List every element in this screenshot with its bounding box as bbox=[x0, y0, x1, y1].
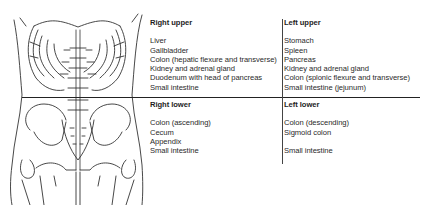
quadrant-right-lower: Right lower Colon (ascending) Cecum Appe… bbox=[150, 100, 211, 155]
organ-item: Small intestine bbox=[150, 83, 277, 92]
organ-item: Duodenum with head of pancreas bbox=[150, 73, 277, 82]
quadrant-right-upper: Right upper Liver Gallbladder Colon (hep… bbox=[150, 18, 277, 92]
organ-item: Kidney and adrenal gland bbox=[284, 64, 410, 73]
hip-joints bbox=[20, 160, 135, 178]
organ-item: Small intestine (jejunum) bbox=[284, 83, 410, 92]
organ-item: Colon (descending) bbox=[284, 118, 349, 127]
torso-skeleton-illustration bbox=[0, 0, 148, 205]
organ-item: Stomach bbox=[284, 36, 410, 45]
organ-item: Small intestine bbox=[284, 146, 349, 155]
sacrum bbox=[62, 120, 94, 160]
spacer bbox=[284, 137, 349, 146]
body-outline-right bbox=[132, 15, 143, 205]
organ-item: Liver bbox=[150, 36, 277, 45]
horizontal-quadrant-divider bbox=[22, 97, 420, 98]
organ-item: Small intestine bbox=[150, 146, 211, 155]
organ-item: Cecum bbox=[150, 128, 211, 137]
organ-item: Colon (ascending) bbox=[150, 118, 211, 127]
body-outline-left bbox=[11, 20, 23, 205]
organ-item: Colon (splonic flexure and transverse) bbox=[284, 73, 410, 82]
organ-item: Colon (hepatic flexure and transverse) bbox=[150, 55, 277, 64]
quadrant-title: Left upper bbox=[284, 18, 410, 27]
quadrant-left-lower: Left lower Colon (descending) Sigmoid co… bbox=[284, 100, 349, 155]
organ-item: Kidney and adrenal gland bbox=[150, 64, 277, 73]
organ-item: Pancreas bbox=[284, 55, 410, 64]
organ-item: Appendix bbox=[150, 137, 211, 146]
quadrant-title: Left lower bbox=[284, 100, 349, 109]
vertical-quadrant-divider bbox=[282, 19, 283, 164]
pelvis bbox=[26, 104, 131, 130]
quadrant-left-upper: Left upper Stomach Spleen Pancreas Kidne… bbox=[284, 18, 410, 92]
organ-item: Gallbladder bbox=[150, 46, 277, 55]
organ-item: Sigmoid colon bbox=[284, 128, 349, 137]
quadrant-title: Right lower bbox=[150, 100, 211, 109]
organ-item: Spleen bbox=[284, 46, 410, 55]
quadrant-title: Right upper bbox=[150, 18, 277, 27]
